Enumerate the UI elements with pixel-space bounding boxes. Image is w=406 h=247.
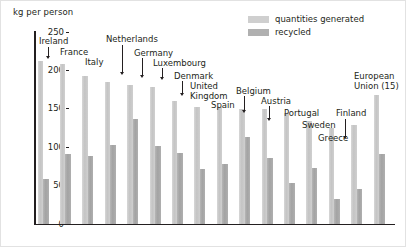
bar-recycled [133, 119, 139, 224]
callout-leader-line [162, 68, 163, 77]
y-axis-unit-label: kg per person [13, 7, 73, 17]
callout-label: Finland [336, 109, 366, 119]
callout-arrowhead-icon [267, 118, 271, 121]
callout-label: European Union (15) [354, 72, 399, 91]
callout-leader-line [142, 58, 143, 75]
bar-recycled [177, 153, 183, 224]
callout-leader-line [345, 119, 346, 136]
callout-label: Sweden [302, 121, 336, 131]
callout-leader-line [269, 106, 270, 118]
bar-group [351, 32, 362, 224]
callout-leader-line [122, 45, 123, 72]
bar-group [262, 32, 273, 224]
bar-recycled [334, 199, 340, 224]
bar-group [239, 32, 250, 224]
chart-figure: kg per person 050100150200250 IrelandFra… [0, 0, 406, 247]
callout-leader-line [48, 47, 49, 56]
bar-recycled [43, 179, 49, 224]
bar-group [284, 32, 295, 224]
legend-item: quantities generated [248, 13, 364, 25]
bar-recycled [267, 158, 273, 224]
callout-arrowhead-icon [46, 56, 50, 59]
callout-label: United Kingdom [190, 82, 228, 101]
bar-recycled [357, 189, 363, 224]
bar-recycled [65, 154, 71, 224]
bar-recycled [289, 183, 295, 224]
callout-arrowhead-icon [242, 110, 246, 113]
bar-recycled [155, 146, 161, 224]
chart-legend: quantities generatedrecycled [248, 13, 364, 39]
bar-group [127, 32, 138, 224]
callout-label: Portugal [284, 109, 319, 119]
bar-recycled [245, 137, 251, 224]
bar-group [60, 32, 71, 224]
bar-group [38, 32, 49, 224]
bar-group [374, 32, 385, 224]
bar-recycled [222, 164, 228, 224]
callout-label: Spain [211, 101, 235, 111]
callout-arrowhead-icon [180, 93, 184, 96]
callout-label: Ireland [39, 37, 68, 47]
bar-recycled [200, 169, 206, 224]
bar-recycled [312, 168, 318, 224]
bar-group [105, 32, 116, 224]
callout-arrowhead-icon [120, 72, 124, 75]
bar-recycled [110, 145, 116, 224]
bar-group [217, 32, 228, 224]
legend-item: recycled [248, 26, 364, 38]
callout-leader-line [244, 96, 245, 110]
legend-swatch-recycled [248, 29, 269, 36]
callout-arrowhead-icon [343, 136, 347, 139]
callout-label: Netherlands [106, 35, 158, 45]
callout-arrowhead-icon [160, 77, 164, 80]
callout-arrowhead-icon [140, 75, 144, 78]
callout-leader-line [182, 81, 183, 93]
callout-label: Austria [261, 97, 291, 107]
callout-label: Italy [85, 58, 103, 68]
callout-label: Luxembourg [153, 59, 206, 69]
bar-recycled [88, 156, 94, 224]
bar-recycled [379, 154, 385, 224]
legend-label: quantities generated [275, 14, 364, 24]
legend-label: recycled [275, 27, 311, 37]
legend-swatch-generated [248, 16, 269, 23]
